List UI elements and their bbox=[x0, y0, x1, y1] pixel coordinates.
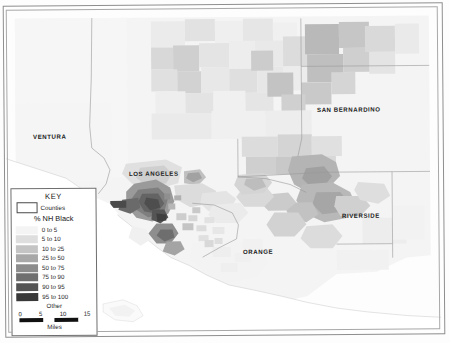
legend-class-row: 10 to 25 bbox=[16, 244, 92, 254]
scale-bar-group: 0 5 10 15 Miles bbox=[16, 311, 92, 330]
legend-class-row: 0 to 5 bbox=[16, 225, 92, 235]
legend-class-row: 90 to 95 bbox=[16, 282, 92, 292]
legend-label-2: 10 to 25 bbox=[42, 245, 64, 253]
legend-swatch-7 bbox=[16, 293, 38, 301]
place-label-riverside: RIVERSIDE bbox=[342, 212, 380, 219]
counties-label: Counties bbox=[41, 204, 65, 211]
counties-swatch bbox=[17, 202, 38, 213]
place-label-san-bernardino: SAN BERNARDINO bbox=[317, 106, 381, 113]
scale-bar bbox=[19, 318, 89, 323]
legend-other-label: Other bbox=[16, 302, 92, 310]
legend-class-row: 95 to 100 bbox=[16, 292, 92, 302]
place-label-ventura: VENTURA bbox=[33, 133, 66, 140]
legend-label-3: 25 to 50 bbox=[42, 254, 64, 262]
legend-swatch-4 bbox=[16, 264, 38, 272]
legend-label-5: 75 to 90 bbox=[42, 273, 64, 281]
legend-class-row: 75 to 90 bbox=[16, 273, 92, 283]
legend-variable-title: % NH Black bbox=[16, 214, 92, 224]
map-legend: KEY Counties % NH Black 0 to 5 5 to 10 1… bbox=[10, 188, 97, 337]
scale-seg-light bbox=[43, 318, 54, 322]
legend-swatch-0 bbox=[16, 226, 38, 234]
scale-seg-dark-1 bbox=[19, 318, 43, 322]
legend-label-1: 5 to 10 bbox=[42, 235, 61, 243]
legend-class-row: 50 to 75 bbox=[16, 263, 92, 273]
place-label-orange: ORANGE bbox=[243, 248, 273, 255]
legend-class-row: 5 to 10 bbox=[16, 234, 92, 244]
legend-swatch-3 bbox=[16, 254, 38, 262]
scale-tick-0: 0 bbox=[18, 311, 21, 317]
legend-label-0: 0 to 5 bbox=[42, 225, 58, 233]
legend-swatch-6 bbox=[16, 283, 38, 291]
scale-tick-labels: 0 5 10 15 bbox=[16, 311, 92, 318]
scale-tick-1: 5 bbox=[39, 311, 42, 317]
legend-swatch-1 bbox=[16, 235, 38, 243]
map-page: VENTURA LOS ANGELES SAN BERNARDINO ORANG… bbox=[0, 0, 450, 343]
legend-label-4: 50 to 75 bbox=[42, 264, 64, 272]
legend-swatch-2 bbox=[16, 245, 38, 253]
legend-label-6: 90 to 95 bbox=[42, 283, 64, 291]
scale-tick-3: 15 bbox=[84, 311, 91, 317]
scale-seg-dark-2 bbox=[54, 318, 78, 322]
place-label-los-angeles: LOS ANGELES bbox=[129, 170, 179, 177]
legend-class-row: 25 to 50 bbox=[16, 253, 92, 263]
scale-tick-2: 10 bbox=[60, 311, 67, 317]
legend-title: KEY bbox=[15, 192, 91, 202]
legend-swatch-5 bbox=[16, 274, 38, 282]
legend-label-7: 95 to 100 bbox=[42, 293, 68, 301]
scale-units-label: Miles bbox=[16, 322, 92, 330]
legend-counties-row: Counties bbox=[17, 202, 92, 214]
scale-seg-end bbox=[78, 318, 89, 322]
